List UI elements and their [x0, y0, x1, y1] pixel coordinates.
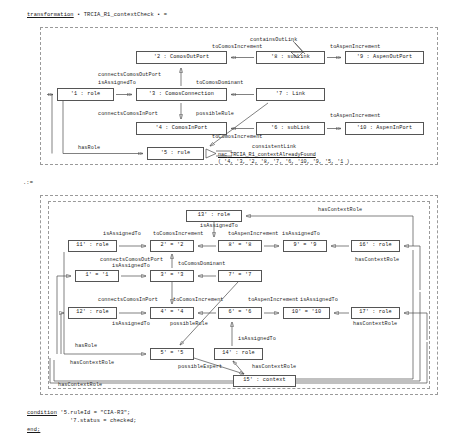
rhs-label-possible-expert: possibleExpert: [178, 365, 222, 370]
node-6-sublink[interactable]: '6 : subLink: [256, 122, 325, 135]
diagram-canvas: transformation • TRCIA_R1_contextCheck •…: [0, 0, 451, 437]
condition-line-1: condition '5.ruleId = "CIA-R3";: [27, 410, 130, 416]
rhs-label-has-context-role-5: hasContextRole: [70, 361, 114, 366]
edge-label-to-aspen-increment-top: toAspenIncrement: [330, 45, 381, 50]
nac-name: TRCIA_R1_contextAlreadyFound: [227, 152, 316, 158]
nac-keyword: nac: [218, 152, 227, 158]
nac-args: ( '4, '3, '2, '8, '7, '6, '10, '9, '5, '…: [218, 159, 349, 165]
node-10-prime[interactable]: 10' = '10: [283, 307, 330, 319]
node-14-role[interactable]: 14' : role: [214, 348, 263, 360]
node-2-prime[interactable]: 2' = '2: [150, 240, 194, 252]
rhs-label-has-context-role-3: hasContextRole: [353, 322, 397, 327]
rhs-label-is-assigned-to-12: isAssignedTo: [112, 322, 150, 327]
edge-label-connects-comos-in-port: connectsComosInPort: [98, 112, 158, 117]
rhs-label-is-assigned-to-13: isAssignedTo: [200, 224, 238, 229]
rhs-label-connects-comos-in-port: connectsComosInPort: [98, 298, 158, 303]
edge-label-consistent-link: consistentLink: [252, 145, 296, 150]
node-11-role[interactable]: 11' : role: [68, 240, 117, 252]
rhs-label-to-comos-increment-bottom: toComosIncrement: [173, 298, 224, 303]
end-keyword: end;: [27, 427, 40, 433]
node-8-sublink[interactable]: '8 : subLink: [256, 51, 325, 64]
node-3-prime[interactable]: 3' = '3: [150, 270, 194, 282]
end-text: end;: [27, 427, 40, 433]
edge-label-to-aspen-increment-bottom: toAspenIncrement: [330, 114, 381, 119]
node-5-prime[interactable]: 5' = '5: [150, 348, 194, 360]
node-1-prime[interactable]: 1' = '1: [75, 270, 119, 282]
rhs-label-is-assigned-to-1: isAssignedTo: [112, 264, 150, 269]
node-9-aspen-out-port[interactable]: '9 : AspenOutPort: [345, 51, 424, 64]
node-13-role[interactable]: 13' : role: [186, 210, 242, 222]
edge-label-connects-comos-out-port: connectsComosOutPort: [98, 73, 161, 78]
edge-label-to-comos-increment-bottom: toComosIncrement: [212, 135, 263, 140]
condition-expr-1: '5.ruleId = "CIA-R3";: [57, 410, 130, 416]
node-8-prime[interactable]: 8' = '8: [218, 240, 262, 252]
rhs-label-has-context-role-6: hasContextRole: [58, 383, 102, 388]
node-10-aspen-in-port[interactable]: '10 : AspenInPort: [345, 122, 424, 135]
rhs-label-to-aspen-increment-bottom: toAspenIncrement: [248, 298, 299, 303]
edge-label-to-comos-dominant: toComosDominant: [196, 81, 243, 86]
rhs-label-to-aspen-increment-top: toAspenIncrement: [228, 232, 279, 237]
transformation-title: • TRCIA_R1_contextCheck • =: [74, 12, 167, 18]
edge-label-to-comos-increment-top: toComosIncrement: [212, 45, 263, 50]
node-1-role[interactable]: '1 : role: [57, 88, 114, 101]
node-7-link[interactable]: '7 : Link: [256, 88, 325, 101]
rhs-label-has-context-role-4: hasContextRole: [252, 365, 296, 370]
node-17-role[interactable]: 17' : role: [351, 307, 400, 319]
node-3-comos-connection[interactable]: '3 : ComosConnection: [136, 88, 227, 101]
edge-label-is-assigned-to-lhs: isAssignedTo: [98, 81, 136, 86]
node-12-role[interactable]: 12' : role: [68, 307, 117, 319]
rhs-label-has-role: hasRole: [75, 344, 97, 349]
edge-label-possible-rule: possibleRule: [196, 112, 234, 117]
node-16-role[interactable]: 16' : role: [351, 240, 400, 252]
nac-annotation: nac TRCIA_R1_contextAlreadyFound ( '4, '…: [218, 152, 349, 166]
rhs-label-to-comos-increment-top: toComosIncrement: [153, 232, 204, 237]
rhs-label-has-context-role-2: hasContextRole: [355, 258, 399, 263]
node-2-comos-out-port[interactable]: '2 : ComosOutPort: [136, 51, 227, 64]
node-15-context[interactable]: 15' : context: [233, 375, 296, 387]
node-7-prime[interactable]: 7' = '7: [218, 270, 262, 282]
rhs-label-possible-rule: possibleRule: [170, 322, 208, 327]
condition-keyword: condition: [27, 410, 57, 416]
section-marker: .:=: [23, 180, 33, 186]
rhs-label-to-comos-dominant: toComosDominant: [178, 262, 225, 267]
node-5-rule[interactable]: '5 : rule: [147, 147, 204, 160]
condition-line-2: '7.status = checked;: [70, 418, 137, 424]
transformation-header: transformation • TRCIA_R1_contextCheck •…: [27, 12, 167, 18]
node-4-prime[interactable]: 4' = '4: [150, 307, 194, 319]
rhs-label-is-assigned-to-14: isAssignedTo: [238, 337, 276, 342]
rhs-label-is-assigned-to-17: isAssignedTo: [300, 298, 338, 303]
edge-label-has-role-lhs: hasRole: [78, 146, 100, 151]
rhs-label-is-assigned-to-16: isAssignedTo: [282, 232, 320, 237]
rhs-label-is-assigned-to-11: isAssignedTo: [103, 232, 141, 237]
rhs-label-has-context-role-1: hasContextRole: [318, 208, 362, 213]
node-9-prime[interactable]: 9' = '9: [283, 240, 327, 252]
transformation-keyword: transformation: [27, 12, 74, 18]
node-6-prime[interactable]: 6' = '6: [218, 307, 262, 319]
edge-label-contains-out-link: containsOutLink: [250, 38, 297, 43]
